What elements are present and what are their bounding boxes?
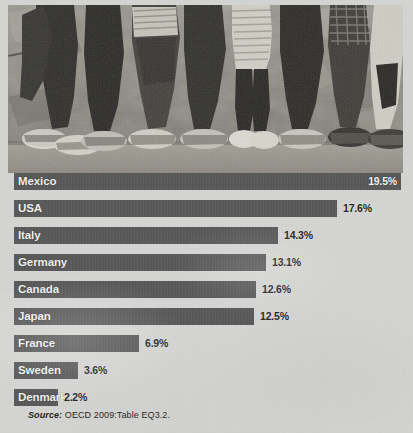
bar-value-sweden: 3.6% [84, 362, 107, 379]
bar-label-mexico: Mexico [18, 173, 56, 190]
bar-value-usa: 17.6% [343, 200, 372, 217]
bar-label-germany: Germany [18, 254, 67, 271]
bar-label-canada: Canada [18, 281, 59, 298]
bar-row: Canada 12.6% [14, 281, 256, 298]
bar-row: Mexico 19.5% [14, 173, 401, 190]
bar-chart: Mexico 19.5% USA 17.6% Italy 14.3% Germa… [0, 173, 413, 405]
bar-usa [14, 200, 337, 217]
bar-row: Germany 13.1% [14, 254, 266, 271]
bar-texture [14, 173, 401, 190]
bar-label-japan: Japan [18, 308, 51, 325]
bar-italy [14, 227, 278, 244]
photograph-image [8, 5, 403, 173]
bar-texture [14, 200, 337, 217]
figure-page: Mexico 19.5% USA 17.6% Italy 14.3% Germa… [0, 0, 413, 433]
bar-label-italy: Italy [18, 227, 41, 244]
bar-value-mexico: 19.5% [368, 173, 397, 190]
bar-label-denmark: Denmark [18, 389, 67, 406]
bar-row: Sweden 3.6% [14, 362, 78, 379]
bar-value-france: 6.9% [145, 335, 168, 352]
bar-value-japan: 12.5% [260, 308, 289, 325]
bar-label-france: France [18, 335, 55, 352]
source-caption: Source: OECD 2009:Table EQ3.2. [28, 410, 170, 420]
bar-label-sweden: Sweden [18, 362, 61, 379]
photograph [8, 5, 403, 173]
bar-value-denmark: 2.2% [64, 389, 87, 406]
bar-value-italy: 14.3% [284, 227, 313, 244]
bar-row: France 6.9% [14, 335, 139, 352]
source-prefix: Source: [28, 410, 62, 420]
bar-row: Japan 12.5% [14, 308, 254, 325]
bar-row: USA 17.6% [14, 200, 337, 217]
bar-row: Denmark 2.2% [14, 389, 58, 406]
source-text: OECD 2009:Table EQ3.2. [62, 410, 170, 420]
bar-label-usa: USA [18, 200, 42, 217]
bar-value-canada: 12.6% [262, 281, 291, 298]
bar-texture [14, 227, 278, 244]
bar-mexico [14, 173, 401, 190]
bar-value-germany: 13.1% [272, 254, 301, 271]
bar-row: Italy 14.3% [14, 227, 278, 244]
